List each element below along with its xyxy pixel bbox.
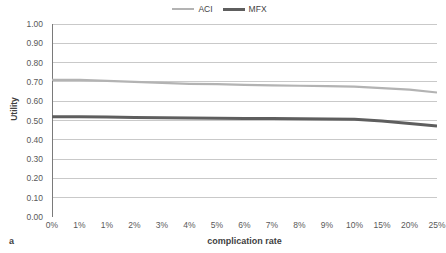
legend-entry-aci: ACI xyxy=(172,5,212,14)
x-axis-tick-label: 5% xyxy=(211,221,223,230)
y-axis-tick-label: 0.70 xyxy=(26,78,43,87)
y-axis-tick-label: 1.00 xyxy=(26,20,43,29)
y-axis-tick-labels: 0.000.100.200.300.400.500.600.700.800.90… xyxy=(0,24,48,217)
legend-entry-mfx: MFX xyxy=(223,5,267,14)
x-axis-tick-label: 7% xyxy=(266,221,278,230)
x-axis-tick-label: 4% xyxy=(183,221,195,230)
y-axis-tick-label: 0.30 xyxy=(26,155,43,164)
x-axis-tick-label: 15% xyxy=(373,221,390,230)
y-axis-tick-label: 0.90 xyxy=(26,39,43,48)
x-axis-tick-label: 10% xyxy=(346,221,363,230)
x-axis-tick-labels: 0%1%1%2%3%4%5%6%7%8%9%10%15%20%25% xyxy=(52,221,437,235)
y-axis-tick-label: 0.80 xyxy=(26,58,43,67)
y-axis-tick-label: 0.60 xyxy=(26,97,43,106)
legend-label-aci: ACI xyxy=(198,5,212,14)
x-axis-tick-label: 6% xyxy=(238,221,250,230)
legend-label-mfx: MFX xyxy=(249,5,267,14)
y-axis-tick-label: 0.50 xyxy=(26,116,43,125)
x-axis-title: complication rate xyxy=(52,236,437,246)
x-axis-tick-label: 25% xyxy=(428,221,445,230)
panel-letter: a xyxy=(9,236,14,246)
x-axis-tick-label: 1% xyxy=(101,221,113,230)
plot-svg xyxy=(52,24,437,217)
legend-swatch-aci xyxy=(172,8,194,10)
x-axis-tick-label: 20% xyxy=(401,221,418,230)
chart-legend: ACI MFX xyxy=(0,0,439,18)
plot-area xyxy=(52,24,437,217)
x-axis-tick-label: 0% xyxy=(46,221,58,230)
y-axis-tick-label: 0.20 xyxy=(26,174,43,183)
x-axis-tick-label: 9% xyxy=(321,221,333,230)
x-axis-tick-label: 2% xyxy=(128,221,140,230)
legend-swatch-mfx xyxy=(223,8,245,11)
y-axis-tick-label: 0.10 xyxy=(26,193,43,202)
y-axis-tick-label: 0.40 xyxy=(26,136,43,145)
x-axis-tick-label: 8% xyxy=(293,221,305,230)
x-axis-tick-label: 3% xyxy=(156,221,168,230)
y-axis-tick-label: 0.00 xyxy=(26,213,43,222)
x-axis-tick-label: 1% xyxy=(73,221,85,230)
